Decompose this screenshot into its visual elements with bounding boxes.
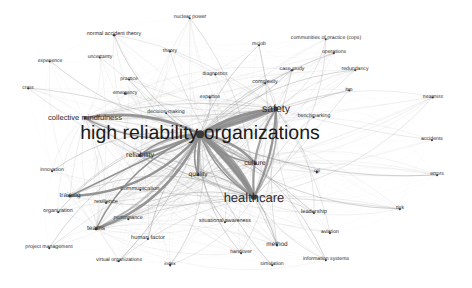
node-label: theory xyxy=(163,49,177,54)
node-label: complexity xyxy=(252,80,277,85)
node-label: high reliability organizations xyxy=(80,124,320,144)
node-handover[interactable]: handover xyxy=(230,250,252,255)
node-label: cqi xyxy=(314,170,320,175)
node-mcjob[interactable]: mcjob xyxy=(252,42,266,47)
node-label: risk xyxy=(396,206,404,211)
node-nearmiss[interactable]: nearmiss xyxy=(423,95,443,100)
node-layer: high reliability organizationshealthcare… xyxy=(0,0,472,288)
node-communities-of-practice-cops[interactable]: communities of practice (cops) xyxy=(291,36,361,41)
node-high-reliability-organizations[interactable]: high reliability organizations xyxy=(80,124,320,144)
node-label: index xyxy=(164,263,175,268)
node-label: healthcare xyxy=(224,191,285,204)
node-performance[interactable]: performance xyxy=(113,216,142,221)
node-label: practice xyxy=(120,77,138,82)
network-map-canvas[interactable]: high reliability organizationshealthcare… xyxy=(0,0,472,288)
node-label: aviation xyxy=(321,230,339,235)
node-label: culture xyxy=(244,159,266,166)
node-label: crisis xyxy=(22,86,33,91)
node-safety[interactable]: safety xyxy=(262,104,290,115)
node-label: project management xyxy=(25,245,72,250)
node-practice[interactable]: practice xyxy=(120,77,138,82)
node-redundancy[interactable]: redundancy xyxy=(341,67,368,72)
node-benchmarking[interactable]: benchmarking xyxy=(298,114,331,119)
node-normal-accident-theory[interactable]: normal accident theory xyxy=(87,32,142,37)
node-hro[interactable]: hro xyxy=(345,88,352,93)
node-expertise[interactable]: expertise xyxy=(200,95,220,100)
node-project-management[interactable]: project management xyxy=(25,245,72,250)
node-label: communication xyxy=(121,187,160,193)
node-case-study[interactable]: case study xyxy=(280,67,305,72)
node-culture[interactable]: culture xyxy=(244,159,266,166)
node-label: innovation xyxy=(40,168,64,173)
node-leadership[interactable]: leadership xyxy=(301,210,327,216)
node-label: handover xyxy=(230,250,252,255)
node-collective-mindfulness[interactable]: collective mindfulness xyxy=(48,114,122,122)
node-label: resilience xyxy=(94,200,118,206)
node-experience[interactable]: experience xyxy=(38,59,62,64)
node-label: nearmiss xyxy=(423,95,443,100)
node-label: uncertainty xyxy=(88,55,112,60)
node-healthcare[interactable]: healthcare xyxy=(224,191,285,204)
node-label: diagnostics xyxy=(202,72,227,77)
node-information-systems[interactable]: information systems xyxy=(303,257,349,262)
node-label: normal accident theory xyxy=(87,32,142,37)
node-training[interactable]: training xyxy=(60,193,81,199)
node-uncertainty[interactable]: uncertainty xyxy=(88,55,112,60)
node-label: nuclear power xyxy=(174,15,207,20)
node-label: human factor xyxy=(131,236,165,242)
node-diagnostics[interactable]: diagnostics xyxy=(202,72,227,77)
node-label: mcjob xyxy=(252,42,266,47)
node-label: redundancy xyxy=(341,67,368,72)
node-label: case study xyxy=(280,67,305,72)
node-quality[interactable]: quality xyxy=(188,172,207,179)
node-label: organization xyxy=(43,209,72,214)
node-complexity[interactable]: complexity xyxy=(252,80,277,85)
node-decision-making[interactable]: decision-making xyxy=(147,110,184,115)
node-label: decision-making xyxy=(147,110,184,115)
node-label: leadership xyxy=(301,210,327,216)
node-label: method xyxy=(266,242,287,248)
node-teams[interactable]: teams xyxy=(87,226,105,233)
node-nuclear-power[interactable]: nuclear power xyxy=(174,15,207,20)
node-label: information systems xyxy=(303,257,349,262)
node-simulation[interactable]: simulation xyxy=(260,262,283,267)
node-label: safety xyxy=(262,104,290,115)
node-label: hro xyxy=(345,88,352,93)
node-label: situational awareness xyxy=(199,219,251,224)
node-label: benchmarking xyxy=(298,114,331,119)
node-resilience[interactable]: resilience xyxy=(94,200,118,206)
node-errors[interactable]: errors xyxy=(430,172,444,177)
node-theory[interactable]: theory xyxy=(163,49,177,54)
node-index[interactable]: index xyxy=(164,263,175,268)
node-communication[interactable]: communication xyxy=(121,187,160,193)
node-accidents[interactable]: accidents xyxy=(421,137,443,142)
node-label: experience xyxy=(38,59,62,64)
node-virtual-organizations[interactable]: virtual organizations xyxy=(96,258,142,263)
node-aviation[interactable]: aviation xyxy=(321,230,339,235)
node-method[interactable]: method xyxy=(266,242,287,248)
node-label: accidents xyxy=(421,137,443,142)
node-label: communities of practice (cops) xyxy=(291,36,361,41)
node-cqi[interactable]: cqi xyxy=(314,170,320,175)
node-label: teams xyxy=(87,226,105,233)
node-label: training xyxy=(60,193,81,199)
node-organization[interactable]: organization xyxy=(43,209,72,214)
node-innovation[interactable]: innovation xyxy=(40,168,64,173)
node-situational-awareness[interactable]: situational awareness xyxy=(199,219,251,224)
node-label: expertise xyxy=(200,95,220,100)
node-label: reliability xyxy=(126,151,154,158)
node-label: virtual organizations xyxy=(96,258,142,263)
node-crisis[interactable]: crisis xyxy=(22,86,33,91)
node-label: errors xyxy=(430,172,444,177)
node-label: performance xyxy=(113,216,142,221)
node-label: operations xyxy=(322,50,346,55)
node-risk[interactable]: risk xyxy=(396,206,404,211)
node-emergency[interactable]: emergency xyxy=(113,91,138,96)
node-human-factor[interactable]: human factor xyxy=(131,236,165,242)
node-operations[interactable]: operations xyxy=(322,50,346,55)
node-label: quality xyxy=(188,172,207,179)
node-label: simulation xyxy=(260,262,283,267)
node-reliability[interactable]: reliability xyxy=(126,151,154,158)
node-label: collective mindfulness xyxy=(48,114,122,122)
node-label: emergency xyxy=(113,91,138,96)
